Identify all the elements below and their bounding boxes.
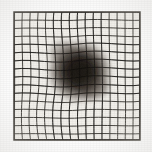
amsler-grid-figure: Amsler grid with central scotoma and met… — [0, 0, 152, 152]
amsler-grid-canvas — [0, 0, 152, 152]
paper-grain — [13, 11, 141, 141]
